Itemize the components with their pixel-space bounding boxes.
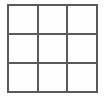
canvas (0, 0, 105, 99)
3x3-grid (7, 4, 98, 93)
grid-cell-r3c1[interactable] (9, 64, 37, 91)
grid-cell-r1c2[interactable] (39, 6, 67, 33)
grid-cell-r3c3[interactable] (68, 64, 96, 91)
grid-cell-r2c1[interactable] (9, 35, 37, 62)
grid-cell-r2c2[interactable] (39, 35, 67, 62)
grid-cell-r2c3[interactable] (68, 35, 96, 62)
grid-cell-r1c3[interactable] (68, 6, 96, 33)
grid-cell-r1c1[interactable] (9, 6, 37, 33)
grid-cell-r3c2[interactable] (39, 64, 67, 91)
